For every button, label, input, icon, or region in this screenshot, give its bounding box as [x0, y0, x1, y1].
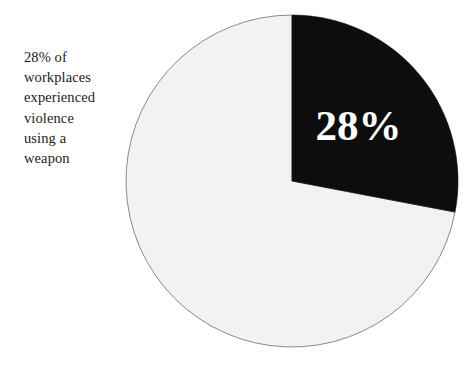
pie-slice-value-label: 28%: [316, 102, 402, 149]
pie-svg: 28%: [0, 0, 472, 371]
pie-chart-graphic: 28%: [0, 0, 472, 371]
pie-chart-figure: 28% of workplaces experienced violence u…: [0, 0, 472, 371]
